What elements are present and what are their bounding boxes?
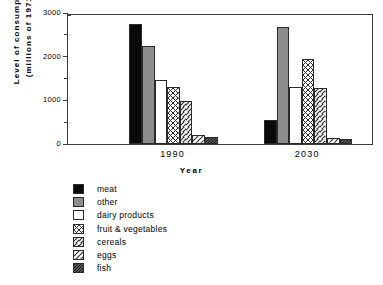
legend-swatch (73, 263, 84, 273)
legend-label: meat (97, 184, 117, 194)
bar-meat (129, 24, 142, 144)
y-axis-tick-label: 3000 (43, 8, 61, 17)
bar-group (129, 15, 217, 144)
y-axis-title-line1: Level of consumption (11, 0, 23, 84)
bar-other (277, 27, 290, 144)
bar-cereals (180, 101, 193, 144)
bar-group-bars (129, 15, 217, 144)
y-axis-title: Level of consumption (millions of 1971$) (3, 0, 43, 102)
legend-swatch (73, 197, 84, 207)
tick-mark (63, 144, 68, 145)
legend-label: other (97, 197, 118, 207)
bar-group (264, 15, 352, 144)
legend: meatotherdairy productsfruit & vegetable… (73, 182, 167, 275)
legend-label: eggs (97, 250, 116, 260)
legend-item: eggs (73, 248, 167, 261)
legend-swatch (73, 224, 84, 234)
legend-swatch (73, 184, 84, 194)
bar-meat (264, 120, 277, 144)
legend-swatch (73, 210, 84, 220)
y-axis-tick-label: 1000 (43, 95, 61, 104)
bar-other (142, 46, 155, 144)
legend-label: fish (97, 263, 111, 273)
bar-dairy-products (289, 87, 302, 144)
legend-swatch (73, 250, 84, 260)
y-axis-title-line2: (millions of 1971$) (23, 0, 35, 77)
bar-cereals (314, 88, 327, 144)
tick-mark (64, 78, 68, 79)
bar-fish (205, 137, 218, 144)
bar-fish (340, 139, 353, 144)
legend-item: cereals (73, 235, 167, 248)
x-axis-group-label: 1990 (143, 149, 203, 159)
tick-mark (63, 56, 68, 57)
legend-item: dairy products (73, 209, 167, 222)
y-axis-tick-label: 2000 (43, 52, 61, 61)
bar-group-bars (264, 15, 352, 144)
x-axis-group-label: 2030 (277, 149, 337, 159)
tick-mark (64, 34, 68, 35)
legend-item: fish (73, 262, 167, 275)
x-axis-title: Year (0, 166, 383, 175)
bar-fruit-vegetables (302, 59, 315, 144)
y-axis-tick-inner (68, 15, 71, 16)
y-axis-tick-label: 0 (57, 139, 61, 148)
bar-dairy-products (155, 80, 168, 144)
tick-mark (63, 13, 68, 14)
legend-label: cereals (97, 237, 126, 247)
legend-label: dairy products (97, 210, 154, 220)
legend-item: fruit & vegetables (73, 222, 167, 235)
bar-chart: Level of consumption (millions of 1971$)… (0, 0, 383, 285)
tick-mark (64, 122, 68, 123)
legend-item: meat (73, 182, 167, 195)
bar-eggs (192, 135, 205, 144)
plot-area: 0100020003000 (67, 14, 373, 145)
legend-label: fruit & vegetables (97, 224, 167, 234)
legend-item: other (73, 195, 167, 208)
legend-swatch (73, 237, 84, 247)
tick-mark (63, 100, 68, 101)
bar-fruit-vegetables (167, 87, 180, 144)
bar-eggs (327, 138, 340, 144)
